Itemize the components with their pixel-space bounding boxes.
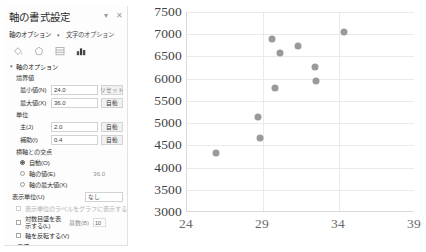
- tab-text-options[interactable]: 文字のオプション: [66, 30, 114, 39]
- row-display-units: 表示単位(U) なし: [4, 190, 127, 203]
- group-bounds-label: 境界値: [4, 72, 127, 83]
- pane-title: 軸の書式設定: [9, 9, 70, 24]
- checkbox-reverse-axis-text: 軸を反転する(V): [25, 231, 69, 240]
- radio-axis-value-label: 軸の値(E): [29, 169, 55, 178]
- scatter-point[interactable]: [311, 64, 318, 71]
- section-tick-marks[interactable]: ▸ 目盛: [4, 241, 127, 246]
- triangle-right-icon: ▸: [10, 245, 13, 246]
- y-axis-labels: 3000350040004500500055006000650070007500: [140, 4, 184, 212]
- group-units-label: 単位: [4, 109, 127, 120]
- triangle-down-icon: ▾: [10, 64, 13, 69]
- log-base-input[interactable]: 10: [93, 218, 106, 227]
- y-axis-tick-label: 3500: [154, 182, 182, 198]
- minimum-input[interactable]: 24.0: [51, 85, 98, 95]
- row-major-unit: 主(J) 2.0 自動: [4, 120, 127, 133]
- gridline-horizontal: [187, 101, 414, 102]
- row-minor-unit: 補助(I) 0.4 自動: [4, 133, 127, 146]
- fill-icon[interactable]: [12, 45, 24, 57]
- minor-unit-label: 補助(I): [20, 135, 48, 144]
- axis-options-chart-icon[interactable]: [75, 45, 87, 57]
- gridline-horizontal: [187, 34, 414, 35]
- display-units-select[interactable]: なし: [85, 192, 123, 202]
- pane-header-buttons: ▾ ✕: [101, 11, 124, 20]
- format-axis-pane: 軸の書式設定 ▾ ✕ 軸のオプション ▾ 文字のオプション: [4, 6, 128, 246]
- y-axis-tick-label: 4000: [154, 160, 182, 176]
- checkbox-logarithmic-text: 対数目盛を表示する(L): [25, 215, 65, 229]
- row-maximum: 最大値(X) 36.0 自動: [4, 96, 127, 109]
- scatter-point[interactable]: [269, 35, 276, 42]
- section-tick-marks-label: 目盛: [17, 243, 29, 246]
- minor-unit-auto-button[interactable]: 自動: [101, 135, 123, 145]
- y-axis-tick-label: 5500: [154, 93, 182, 109]
- log-base-label: 基数(B): [69, 218, 89, 227]
- radio-axis-maximum[interactable]: 軸の最大値(X): [4, 179, 127, 190]
- display-units-label: 表示単位(U): [12, 192, 45, 201]
- scatter-point[interactable]: [212, 149, 219, 156]
- y-axis-tick-label: 4500: [154, 137, 182, 153]
- screen-root: 軸の書式設定 ▾ ✕ 軸のオプション ▾ 文字のオプション: [0, 0, 426, 252]
- y-axis-tick-label: 3000: [154, 204, 182, 220]
- radio-axis-maximum-label: 軸の最大値(X): [29, 180, 67, 189]
- major-unit-input[interactable]: 2.0: [51, 122, 98, 132]
- pane-header: 軸の書式設定 ▾ ✕: [4, 6, 127, 28]
- pane-icon-tabs: [4, 41, 127, 60]
- minimum-label: 最小値(N): [20, 85, 48, 94]
- chart-plot-container: 3000350040004500500055006000650070007500…: [140, 4, 422, 248]
- gridline-vertical: [263, 12, 264, 211]
- gridline-vertical: [339, 12, 340, 211]
- scatter-chart[interactable]: 3000350040004500500055006000650070007500…: [140, 4, 422, 248]
- x-axis-labels: 24293439: [186, 216, 414, 236]
- y-axis-tick-label: 6500: [154, 48, 182, 64]
- pane-tabs: 軸のオプション ▾ 文字のオプション: [4, 28, 127, 41]
- gridline-horizontal: [187, 145, 414, 146]
- maximum-auto-button[interactable]: 自動: [101, 98, 123, 108]
- x-axis-tick-label: 39: [407, 216, 421, 232]
- y-axis-tick-label: 6000: [154, 71, 182, 87]
- scatter-point[interactable]: [276, 50, 283, 57]
- scatter-point[interactable]: [256, 135, 263, 142]
- section-axis-options[interactable]: ▾ 軸のオプション: [4, 60, 127, 72]
- y-axis-tick-label: 7500: [154, 4, 182, 20]
- plot-area[interactable]: [186, 12, 414, 212]
- group-horizontal-crosses-label: 横軸との交点: [4, 146, 127, 157]
- row-minimum: 最小値(N) 24.0 リセット: [4, 83, 127, 96]
- radio-axis-value[interactable]: 軸の値(E) 36.0: [4, 168, 127, 179]
- tab-axis-options[interactable]: 軸のオプション: [9, 30, 51, 39]
- radio-axis-maximum-button[interactable]: [20, 182, 25, 187]
- checkbox-reverse-axis[interactable]: 軸を反転する(V): [4, 230, 127, 241]
- radio-axis-value-input[interactable]: 36.0: [93, 171, 123, 177]
- checkbox-show-display-units-text: 表示単位のラベルをグラフに表示する(S): [25, 204, 128, 213]
- maximum-input[interactable]: 36.0: [51, 98, 98, 108]
- minor-unit-input[interactable]: 0.4: [51, 135, 98, 145]
- radio-automatic-button[interactable]: [20, 160, 25, 165]
- scatter-point[interactable]: [255, 113, 262, 120]
- major-unit-auto-button[interactable]: 自動: [101, 122, 123, 132]
- gridline-horizontal: [187, 123, 414, 124]
- checkbox-show-display-units-box[interactable]: [16, 206, 21, 211]
- radio-axis-value-button[interactable]: [20, 171, 25, 176]
- scatter-point[interactable]: [340, 28, 347, 35]
- checkbox-logarithmic-scale[interactable]: 対数目盛を表示する(L) 基数(B) 10: [4, 214, 127, 230]
- scatter-point[interactable]: [294, 43, 301, 50]
- radio-automatic[interactable]: 自動(O): [4, 157, 127, 168]
- radio-automatic-label: 自動(O): [29, 158, 50, 167]
- checkbox-reverse-axis-box[interactable]: [16, 233, 21, 238]
- major-unit-label: 主(J): [20, 122, 48, 131]
- size-properties-icon[interactable]: [54, 45, 66, 57]
- x-axis-tick-label: 34: [331, 216, 345, 232]
- gridline-horizontal: [187, 56, 414, 57]
- maximum-label: 最大値(X): [20, 98, 48, 107]
- scatter-point[interactable]: [313, 77, 320, 84]
- checkbox-show-display-units-label[interactable]: 表示単位のラベルをグラフに表示する(S): [4, 203, 127, 214]
- scatter-point[interactable]: [272, 85, 279, 92]
- y-axis-tick-label: 5000: [154, 115, 182, 131]
- gridline-horizontal: [187, 168, 414, 169]
- checkbox-logarithmic-box[interactable]: [16, 220, 21, 225]
- minimum-reset-button[interactable]: リセット: [101, 85, 123, 95]
- chevron-down-icon[interactable]: ▾: [57, 32, 60, 38]
- pane-options-icon[interactable]: ▾: [101, 11, 110, 20]
- y-axis-tick-label: 7000: [154, 26, 182, 42]
- close-icon[interactable]: ✕: [115, 11, 124, 20]
- section-axis-options-label: 軸のオプション: [16, 62, 58, 71]
- effects-icon[interactable]: [33, 45, 45, 57]
